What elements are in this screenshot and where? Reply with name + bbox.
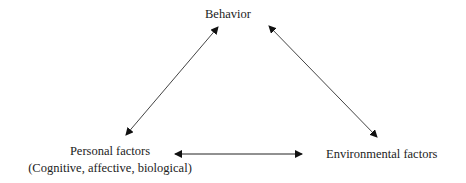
node-environmental-factors: Environmental factors	[326, 146, 437, 163]
arrow-personal-behavior	[126, 27, 218, 135]
personal-factors-sublabel: (Cognitive, affective, biological)	[15, 160, 205, 177]
arrow-behavior-environmental	[269, 26, 377, 137]
personal-factors-label: Personal factors	[15, 143, 205, 160]
environmental-factors-label: Environmental factors	[326, 147, 437, 161]
node-personal-factors: Personal factors (Cognitive, affective, …	[15, 143, 205, 177]
behavior-label: Behavior	[205, 7, 251, 21]
node-behavior: Behavior	[205, 6, 251, 23]
